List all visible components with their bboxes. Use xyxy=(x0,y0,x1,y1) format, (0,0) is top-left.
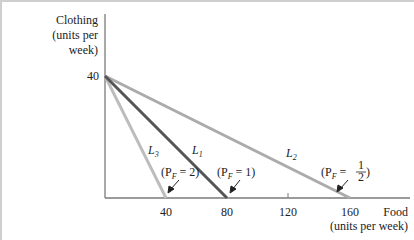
y-axis-label-line2: (units per xyxy=(52,28,98,42)
annotation-pf-2: (PF = 2) xyxy=(161,165,199,181)
svg-text:): ) xyxy=(366,165,370,179)
fraction-denominator: 2 xyxy=(358,170,364,184)
line-label-L2: L2 xyxy=(285,146,297,162)
budget-line-L3 xyxy=(105,76,166,198)
chart-frame: Clothing (units per week) 40 40 80 120 1… xyxy=(0,0,414,240)
x-tick-label-40: 40 xyxy=(160,205,172,219)
line-label-L3: L3 xyxy=(147,143,159,159)
y-axis-label-line3: week) xyxy=(69,43,98,57)
y-tick-label-40: 40 xyxy=(87,69,99,83)
budget-line-L1 xyxy=(105,76,227,198)
x-tick-label-120: 120 xyxy=(279,205,297,219)
svg-text:(PF =: (PF = xyxy=(321,165,347,181)
budget-line-chart: Clothing (units per week) 40 40 80 120 1… xyxy=(0,0,414,240)
line-label-L1: L1 xyxy=(191,143,203,159)
annotation-pf-1: (PF = 1) xyxy=(217,165,255,181)
arrow-head-pf-1 xyxy=(230,186,236,193)
y-axis-label-line1: Clothing xyxy=(56,13,98,27)
x-axis-label-line2: (units per week) xyxy=(330,219,408,233)
x-tick-label-80: 80 xyxy=(221,205,233,219)
annotation-pf-half: (PF = 1 2 ) xyxy=(321,158,370,184)
x-tick-label-160: 160 xyxy=(341,205,359,219)
x-axis-label-line1: Food xyxy=(383,205,408,219)
